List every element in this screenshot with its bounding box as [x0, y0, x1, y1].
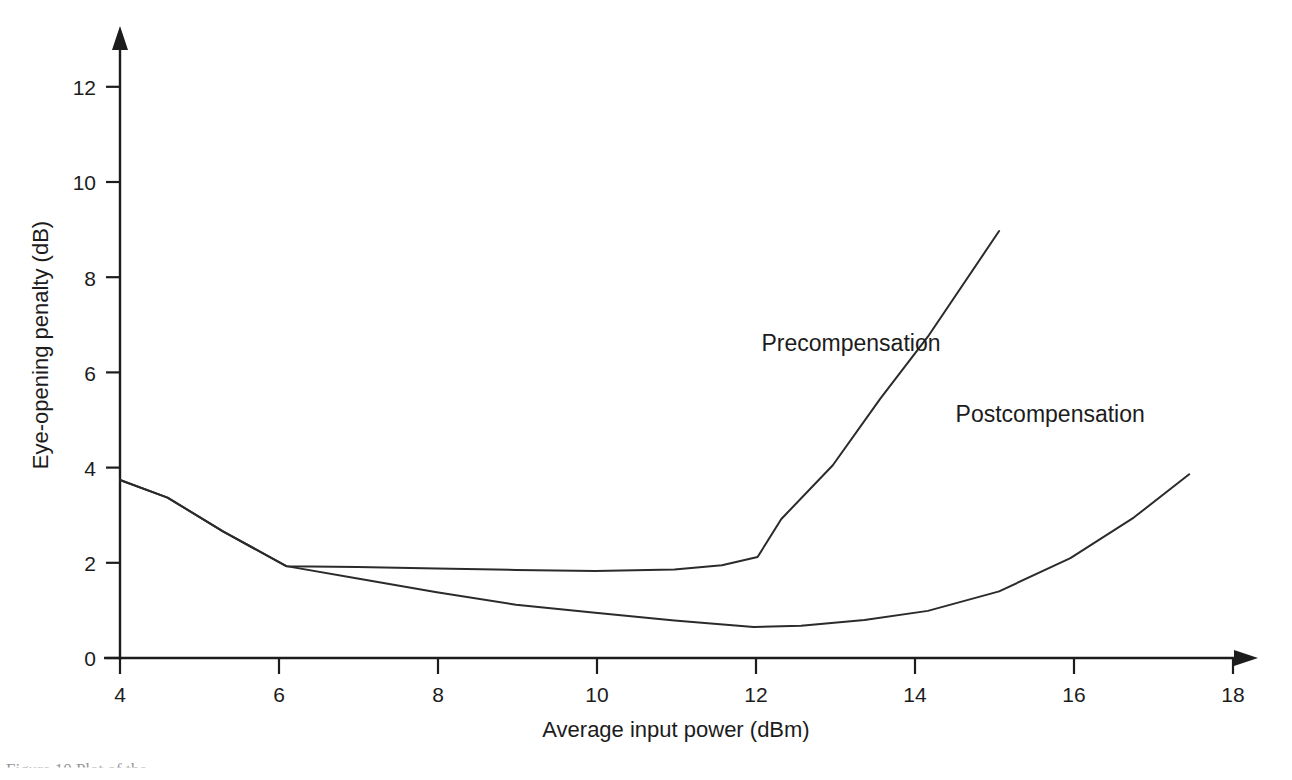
figure-root: 0 2 4 6 8 10 12 4 6 8 10 12: [0, 0, 1292, 780]
x-tick-label-8: 8: [432, 683, 444, 706]
x-tick-label-6: 6: [273, 683, 285, 706]
x-tick-label-12: 12: [744, 683, 767, 706]
y-axis-title: Eye-opening penalty (dB): [28, 221, 53, 469]
y-tick-label-8: 8: [84, 267, 96, 290]
series-label-precompensation: Precompensation: [762, 330, 941, 356]
x-tick-label-10: 10: [585, 683, 608, 706]
x-tick-label-18: 18: [1221, 683, 1244, 706]
series-label-postcompensation: Postcompensation: [956, 401, 1145, 427]
figure-caption-strip: Figure 10 Plot of the: [0, 758, 1292, 780]
series-line-postcompensation: [120, 474, 1189, 627]
y-tick-label-2: 2: [84, 552, 96, 575]
y-tick-label-10: 10: [73, 171, 96, 194]
x-axis-arrowhead: [1234, 650, 1258, 666]
x-tick-label-4: 4: [114, 683, 126, 706]
x-axis-title: Average input power (dBm): [542, 717, 809, 742]
figure-caption: Figure 10 Plot of the: [6, 760, 147, 780]
y-tick-label-0: 0: [84, 647, 96, 670]
series-line-precompensation: [120, 231, 999, 571]
x-axis: [104, 650, 1258, 666]
y-tick-label-4: 4: [84, 457, 96, 480]
y-axis-arrowhead: [112, 26, 128, 50]
x-tick-label-16: 16: [1062, 683, 1085, 706]
y-axis-ticks: 0 2 4 6 8 10 12: [73, 76, 120, 670]
eye-opening-penalty-chart: 0 2 4 6 8 10 12 4 6 8 10 12: [0, 0, 1292, 780]
y-tick-label-12: 12: [73, 76, 96, 99]
x-tick-label-14: 14: [903, 683, 927, 706]
y-axis: [112, 26, 128, 660]
x-axis-ticks: 4 6 8 10 12 14 16 18: [114, 658, 1245, 706]
y-tick-label-6: 6: [84, 362, 96, 385]
